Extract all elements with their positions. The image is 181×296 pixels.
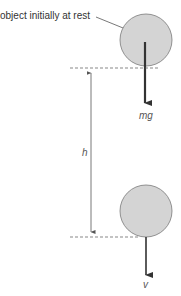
mg-label: mg (139, 110, 153, 121)
ball-final (120, 185, 172, 237)
v-label: v (143, 279, 148, 290)
free-fall-diagram (0, 0, 181, 296)
h-label: h (82, 147, 88, 158)
object-label: object initially at rest (0, 10, 90, 21)
